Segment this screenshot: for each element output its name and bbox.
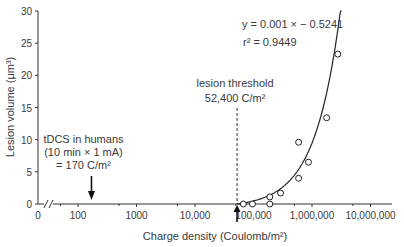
x-tick-label: 10,000,000 [345, 210, 395, 221]
data-points [240, 51, 340, 207]
tdcs-label: = 170 C/m² [56, 159, 111, 171]
data-point [267, 194, 273, 200]
y-ticks: 051015202530 [21, 6, 38, 210]
x-tick-label: 100 [70, 210, 87, 221]
tdcs-label: (10 min × 1 mA) [44, 146, 123, 158]
y-tick-label: 10 [21, 135, 33, 146]
y-tick-label: 5 [26, 167, 32, 178]
fit-equation: y = 0.001 × − 0.5241 [242, 18, 343, 30]
annotations: lesion threshold52,400 C/m²tDCS in human… [43, 77, 273, 222]
fit-r2: r² = 0.9449 [243, 36, 297, 48]
y-tick-label: 30 [21, 6, 33, 17]
x-axis-label: Charge density (Coulomb/m²) [143, 230, 287, 242]
threshold-label: 52,400 C/m² [205, 92, 266, 104]
x-tick-label: 1000 [125, 210, 148, 221]
threshold-label: lesion threshold [197, 77, 274, 89]
x-tick-label: 100,000 [235, 210, 272, 221]
data-point [296, 139, 302, 145]
chart: 051015202530 0100100010,000100,0001,000,… [0, 0, 404, 247]
arrow-down-icon [88, 191, 95, 200]
data-point [296, 175, 302, 181]
y-tick-label: 0 [26, 199, 32, 210]
y-tick-label: 15 [21, 103, 33, 114]
data-point [335, 51, 341, 57]
data-point [267, 201, 273, 207]
x-tick-label: 1,000,000 [290, 210, 335, 221]
x-tick-label: 10,000 [180, 210, 211, 221]
y-tick-label: 25 [21, 38, 33, 49]
x-ticks: 0100100010,000100,0001,000,00010,000,000 [35, 204, 396, 221]
y-axis-label: Lesion volume (μm³) [4, 57, 16, 157]
x-tick-label: 0 [35, 210, 41, 221]
data-point [278, 190, 284, 196]
data-point [240, 201, 246, 207]
data-point [324, 115, 330, 121]
axis-break-icon [44, 198, 53, 210]
arrow-up-icon [234, 205, 241, 212]
tdcs-label: tDCS in humans [43, 133, 124, 145]
y-tick-label: 20 [21, 70, 33, 81]
data-point [305, 159, 311, 165]
data-point [249, 201, 255, 207]
